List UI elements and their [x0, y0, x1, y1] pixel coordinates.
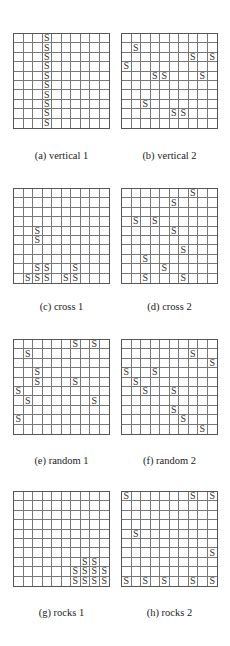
cell-empty	[81, 274, 91, 283]
cell-empty	[198, 378, 208, 387]
cell-empty	[132, 53, 142, 62]
cell-empty	[122, 119, 132, 128]
cell-empty	[198, 100, 208, 109]
cell-s: S	[90, 567, 100, 576]
cell-empty	[33, 208, 43, 217]
cell-empty	[160, 558, 170, 567]
cell-empty	[43, 198, 53, 207]
cell-empty	[170, 208, 180, 217]
cell-empty	[90, 53, 100, 62]
cell-empty	[160, 567, 170, 576]
cell-empty	[132, 349, 142, 358]
cell-s: S	[90, 340, 100, 349]
cell-s: S	[179, 274, 189, 283]
cell-empty	[122, 349, 132, 358]
cell-empty	[170, 53, 180, 62]
cell-empty	[179, 62, 189, 71]
cell-s: S	[33, 236, 43, 245]
grid-rocks-2: SSSSSSSSSS	[121, 491, 218, 587]
cell-empty	[170, 255, 180, 264]
cell-empty	[208, 62, 218, 71]
cell-empty	[141, 548, 151, 557]
cell-empty	[81, 406, 91, 415]
cell-empty	[160, 530, 170, 539]
cell-s: S	[122, 62, 132, 71]
panel-a: SSSSSSSSSS	[13, 33, 110, 129]
cell-empty	[170, 396, 180, 405]
cell-empty	[198, 548, 208, 557]
cell-empty	[33, 406, 43, 415]
panel-e: SSSSSSSSSS	[13, 339, 110, 435]
cell-empty	[198, 236, 208, 245]
cell-empty	[170, 539, 180, 548]
cell-empty	[198, 492, 208, 501]
cell-empty	[141, 43, 151, 52]
cell-empty	[198, 198, 208, 207]
cell-empty	[81, 217, 91, 226]
cell-empty	[132, 415, 142, 424]
cell-s: S	[71, 378, 81, 387]
cell-empty	[43, 189, 53, 198]
cell-empty	[132, 189, 142, 198]
cell-empty	[122, 396, 132, 405]
cell-empty	[14, 511, 24, 520]
cell-empty	[141, 90, 151, 99]
cell-empty	[160, 539, 170, 548]
cell-empty	[189, 255, 199, 264]
cell-empty	[198, 62, 208, 71]
cell-s: S	[189, 189, 199, 198]
cell-empty	[132, 492, 142, 501]
cell-empty	[160, 396, 170, 405]
cell-empty	[81, 100, 91, 109]
cell-s: S	[151, 72, 161, 81]
cell-s: S	[43, 62, 53, 71]
cell-empty	[198, 264, 208, 273]
cell-empty	[160, 43, 170, 52]
cell-empty	[90, 72, 100, 81]
cell-s: S	[43, 264, 53, 273]
cell-empty	[100, 189, 110, 198]
cell-empty	[151, 119, 161, 128]
cell-empty	[122, 236, 132, 245]
cell-empty	[33, 567, 43, 576]
cell-empty	[62, 236, 72, 245]
cell-empty	[170, 245, 180, 254]
cell-empty	[81, 53, 91, 62]
cell-empty	[62, 227, 72, 236]
cell-empty	[62, 359, 72, 368]
cell-empty	[170, 340, 180, 349]
cell-empty	[170, 43, 180, 52]
cell-empty	[71, 217, 81, 226]
cell-empty	[90, 415, 100, 424]
cell-empty	[189, 558, 199, 567]
cell-empty	[24, 548, 34, 557]
cell-empty	[208, 368, 218, 377]
cell-empty	[100, 359, 110, 368]
cell-empty	[170, 189, 180, 198]
cell-s: S	[160, 577, 170, 586]
cell-empty	[14, 368, 24, 377]
cell-empty	[43, 530, 53, 539]
cell-empty	[33, 340, 43, 349]
cell-empty	[141, 425, 151, 434]
cell-empty	[43, 558, 53, 567]
cell-empty	[14, 62, 24, 71]
cell-empty	[33, 548, 43, 557]
cell-empty	[14, 425, 24, 434]
cell-s: S	[208, 577, 218, 586]
cell-s: S	[198, 425, 208, 434]
cell-empty	[151, 189, 161, 198]
cell-empty	[33, 558, 43, 567]
cell-empty	[33, 387, 43, 396]
cell-empty	[81, 539, 91, 548]
cell-empty	[132, 255, 142, 264]
cell-empty	[14, 378, 24, 387]
cell-empty	[90, 425, 100, 434]
cell-empty	[160, 368, 170, 377]
caption-b: (b) vertical 2	[121, 150, 218, 161]
cell-empty	[179, 511, 189, 520]
cell-empty	[43, 255, 53, 264]
cell-empty	[33, 217, 43, 226]
cell-empty	[100, 119, 110, 128]
cell-empty	[90, 492, 100, 501]
